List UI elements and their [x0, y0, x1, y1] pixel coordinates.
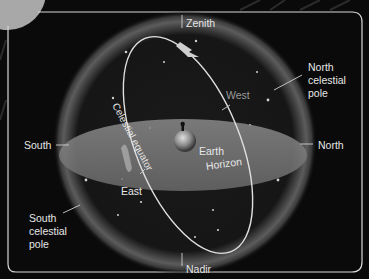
label-south: South	[24, 139, 51, 151]
celestial-sphere-diagram: Zenith Nadir South North East West Earth…	[0, 0, 369, 279]
diagram-canvas	[0, 0, 369, 279]
corner-orb	[0, 0, 46, 30]
label-west: West	[226, 89, 250, 101]
label-zenith: Zenith	[186, 17, 215, 29]
label-east: East	[121, 185, 142, 197]
earth-globe-icon	[174, 130, 196, 152]
label-earth: Earth	[199, 145, 224, 157]
label-north: North	[318, 139, 344, 151]
label-nadir: Nadir	[186, 263, 211, 275]
